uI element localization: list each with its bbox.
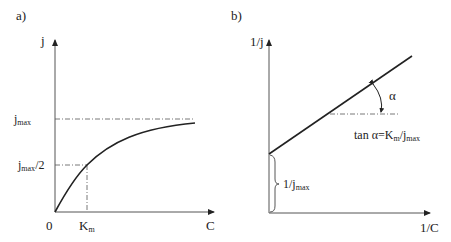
km-label: Km	[79, 218, 95, 234]
panel-b-label: b)	[231, 8, 242, 23]
panel-a: a) j C 0 jmax jmax/2 Km	[13, 8, 215, 234]
origin-label: 0	[46, 218, 53, 233]
intercept-label: 1/jmax	[283, 177, 309, 192]
intercept-brace	[270, 155, 279, 212]
half-jmax-label: jmax/2	[17, 158, 44, 173]
diagram-canvas: a) j C 0 jmax jmax/2 Km b) 1/j 1/C α tan	[0, 0, 451, 242]
panel-a-label: a)	[16, 8, 26, 23]
alpha-label: α	[389, 88, 396, 103]
angle-arc	[373, 84, 382, 112]
slope-label: tan α=Km/jmax	[354, 128, 420, 143]
jmax-label: jmax	[13, 112, 31, 127]
panel-b: b) 1/j 1/C α tan α=Km/jmax 1/jmax	[231, 8, 439, 235]
x-axis-label-b: 1/C	[420, 220, 439, 235]
saturation-curve	[55, 123, 195, 212]
x-axis-label-a: C	[206, 218, 215, 233]
y-axis-label-b: 1/j	[250, 34, 264, 49]
y-axis-label-a: j	[40, 33, 45, 48]
